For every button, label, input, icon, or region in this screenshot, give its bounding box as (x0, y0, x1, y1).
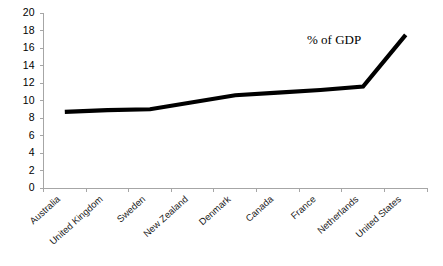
y-tick-label: 2 (29, 164, 35, 176)
x-axis (44, 188, 428, 192)
y-tick-label: 4 (29, 146, 35, 158)
y-tick-label: 18 (23, 24, 35, 36)
y-tick-label: 6 (29, 129, 35, 141)
x-tick-label: United States (353, 193, 403, 240)
y-tick-label: 10 (23, 94, 35, 106)
y-tick-label: 16 (23, 41, 35, 53)
chart-canvas: 02468101214161820 AustraliaUnited Kingdo… (0, 0, 443, 266)
x-tick-label: Canada (243, 193, 276, 224)
x-tick-label: New Zealand (141, 193, 190, 239)
x-tick-label: France (288, 193, 317, 221)
x-tick-label: Denmark (197, 193, 233, 227)
y-tick-label: 8 (29, 111, 35, 123)
line-chart: 02468101214161820 AustraliaUnited Kingdo… (0, 0, 443, 266)
y-axis: 02468101214161820 (23, 6, 44, 193)
x-tick-label: Sweden (114, 193, 147, 224)
x-tick-labels: AustraliaUnited KingdomSwedenNew Zealand… (27, 193, 403, 247)
y-tick-label: 12 (23, 76, 35, 88)
y-tick-label: 20 (23, 6, 35, 18)
y-tick-labels: 02468101214161820 (23, 6, 35, 193)
x-tick-label: Australia (27, 193, 62, 226)
y-tick-label: 0 (29, 181, 35, 193)
x-tick-label: Netherlands (315, 193, 361, 236)
percent-of-gdp-annotation: % of GDP (307, 32, 361, 47)
y-tick-label: 14 (23, 59, 35, 71)
y-tick-marks (40, 13, 44, 188)
